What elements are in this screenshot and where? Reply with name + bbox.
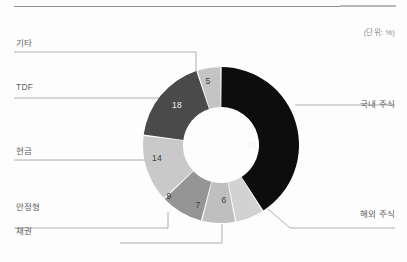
- category-label-bond: 채권: [16, 224, 32, 236]
- value-label-bond: 7: [196, 200, 201, 210]
- value-label-stable: 9: [167, 191, 172, 201]
- leader-line-bond: [120, 224, 222, 243]
- leader-line-etc: [14, 52, 196, 72]
- category-label-tdf: TDF: [16, 82, 33, 92]
- leader-line-stable: [14, 212, 168, 228]
- value-label-overseas-equity: 6: [222, 195, 227, 205]
- category-label-etc: 기타: [16, 36, 32, 48]
- category-label-stable: 안정형: [16, 200, 41, 212]
- value-label-cash: 14: [152, 153, 162, 163]
- value-label-tdf: 18: [172, 100, 182, 110]
- category-label-domestic-equity: 국내 주식: [360, 97, 395, 109]
- value-label-etc: 5: [206, 76, 211, 86]
- value-label-domestic-equity: 41: [247, 140, 257, 150]
- donut-chart: [0, 0, 407, 262]
- category-label-cash: 현금: [16, 144, 32, 156]
- chart-page: (단위: %) 기타 TDF 현금 안정형 채권 국내 주식 해외 주식 41 …: [0, 0, 407, 262]
- category-label-overseas-equity: 해외 주식: [360, 207, 395, 219]
